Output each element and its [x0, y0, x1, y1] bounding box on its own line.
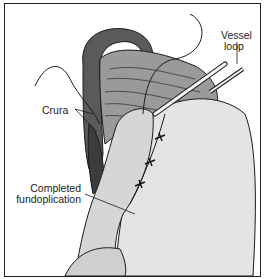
vessel-loop-label: Vessel loop — [221, 30, 252, 52]
illustration-frame: Vessel loop Crura Completed fundoplicati… — [4, 3, 261, 277]
lower-fold — [65, 248, 126, 276]
fundoplication-label: Completed fundoplication — [13, 183, 81, 205]
crura-label: Crura — [42, 105, 68, 116]
